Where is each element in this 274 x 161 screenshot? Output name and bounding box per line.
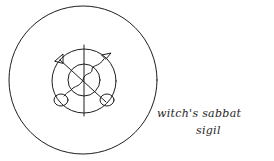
sigil-illustration: witch's sabbat sigil — [0, 0, 274, 161]
witch-sabbat-sigil-icon — [0, 0, 274, 161]
oval-bottom-right-icon — [100, 94, 114, 106]
caption-line-1: witch's sabbat — [157, 107, 241, 120]
oval-bottom-left-icon — [54, 94, 68, 106]
curve-lower — [64, 80, 83, 96]
curve-upper — [83, 59, 104, 80]
triangle-top-right-icon — [102, 53, 111, 59]
caption-line-2: sigil — [196, 124, 221, 137]
